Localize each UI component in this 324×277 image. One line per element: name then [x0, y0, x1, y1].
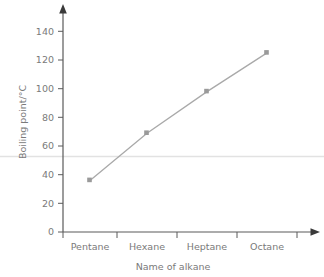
x-tick-label-heptane: Heptane	[187, 241, 228, 252]
y-tick-label: 40	[42, 169, 54, 180]
data-point-heptane	[204, 89, 209, 94]
y-axis-title: Boiling point/°C	[17, 85, 28, 159]
y-tick-label: 120	[36, 54, 54, 65]
y-tick-label: 20	[42, 198, 54, 209]
x-tick-label-octane: Octane	[250, 241, 284, 252]
y-axis-tick-labels: 140 120 100 80 60 40 20 0	[36, 26, 54, 238]
y-axis-arrow-icon	[59, 4, 67, 14]
data-point-octane	[264, 50, 269, 55]
x-tick-label-hexane: Hexane	[129, 241, 165, 252]
y-tick-label: 60	[42, 140, 54, 151]
y-tick-label: 0	[48, 226, 54, 237]
x-axis-title: Name of alkane	[136, 261, 211, 272]
x-axis-ticks	[63, 232, 297, 238]
y-tick-label: 140	[36, 26, 54, 37]
x-tick-label-pentane: Pentane	[71, 241, 110, 252]
data-series	[87, 50, 269, 182]
x-axis-arrow-icon	[311, 228, 321, 236]
y-tick-label: 80	[42, 112, 54, 123]
y-axis-ticks	[58, 31, 63, 232]
chart-container: 140 120 100 80 60 40 20 0 Boiling point/…	[0, 0, 324, 277]
x-axis-tick-labels: Pentane Hexane Heptane Octane	[71, 241, 285, 252]
line-chart: 140 120 100 80 60 40 20 0 Boiling point/…	[0, 0, 324, 277]
series-line-boiling-point	[90, 53, 267, 180]
y-tick-label: 100	[36, 83, 54, 94]
data-point-hexane	[144, 130, 149, 135]
data-point-pentane	[87, 178, 92, 183]
